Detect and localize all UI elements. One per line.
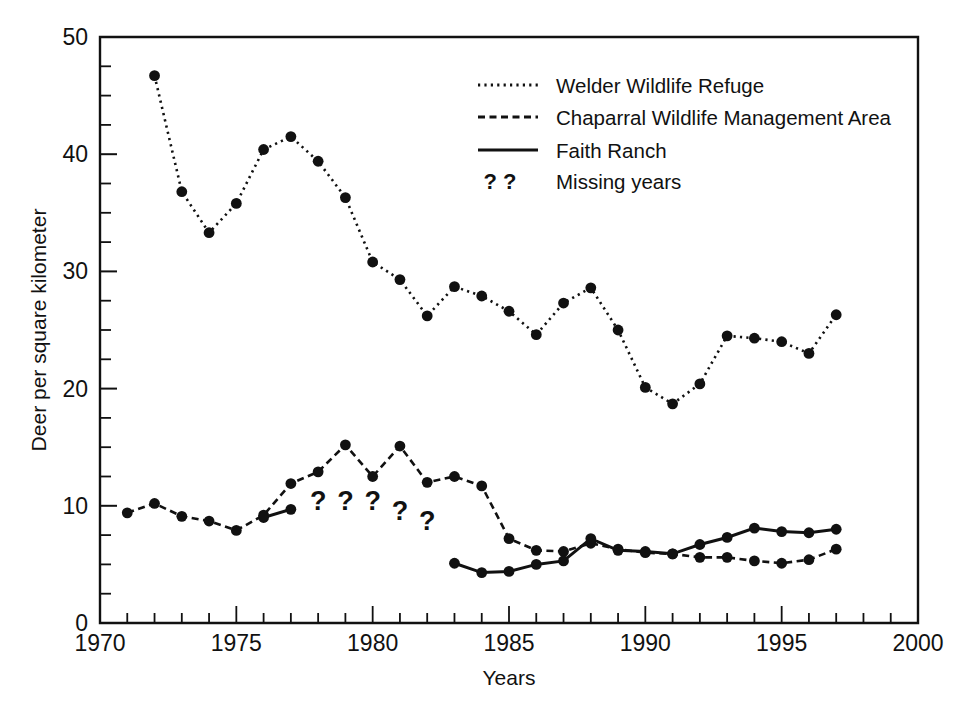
data-point-welder-wildlife-refuge	[231, 198, 242, 209]
missing-year-question-mark: ?	[364, 486, 381, 516]
legend-label: Welder Wildlife Refuge	[556, 74, 764, 97]
data-point-chaparral-wildlife-management-area	[204, 516, 215, 527]
data-point-chaparral-wildlife-management-area	[558, 546, 569, 557]
data-point-welder-wildlife-refuge	[476, 291, 487, 302]
data-point-faith-ranch	[613, 545, 624, 556]
data-point-faith-ranch	[258, 512, 269, 523]
data-point-faith-ranch	[722, 532, 733, 543]
data-point-chaparral-wildlife-management-area	[476, 480, 487, 491]
data-point-chaparral-wildlife-management-area	[340, 439, 351, 450]
data-point-faith-ranch	[449, 558, 460, 569]
missing-year-question-mark: ?	[392, 496, 409, 526]
data-point-welder-wildlife-refuge	[640, 382, 651, 393]
data-point-welder-wildlife-refuge	[831, 309, 842, 320]
data-point-chaparral-wildlife-management-area	[231, 525, 242, 536]
missing-year-annotations: ?????	[310, 486, 436, 536]
legend-label: Faith Ranch	[556, 139, 667, 162]
data-point-faith-ranch	[531, 559, 542, 570]
data-point-welder-wildlife-refuge	[204, 227, 215, 238]
data-point-welder-wildlife-refuge	[613, 325, 624, 336]
x-tick-label: 1975	[211, 630, 262, 656]
data-point-faith-ranch	[640, 546, 651, 557]
y-axis-title: Deer per square kilometer	[27, 209, 50, 452]
data-point-welder-wildlife-refuge	[149, 70, 160, 81]
data-point-welder-wildlife-refuge	[722, 330, 733, 341]
data-point-faith-ranch	[667, 548, 678, 559]
y-tick-label: 50	[62, 24, 88, 50]
data-point-welder-wildlife-refuge	[176, 186, 187, 197]
data-point-chaparral-wildlife-management-area	[122, 507, 133, 518]
x-tick-label: 1995	[756, 630, 807, 656]
data-point-chaparral-wildlife-management-area	[176, 511, 187, 522]
y-tick-label: 10	[62, 493, 88, 519]
y-tick-label: 40	[62, 141, 88, 167]
data-point-faith-ranch	[694, 539, 705, 550]
data-point-welder-wildlife-refuge	[558, 298, 569, 309]
data-point-chaparral-wildlife-management-area	[367, 471, 378, 482]
x-tick-label: 1985	[483, 630, 534, 656]
data-point-chaparral-wildlife-management-area	[149, 498, 160, 509]
y-tick-label: 20	[62, 376, 88, 402]
data-point-chaparral-wildlife-management-area	[831, 544, 842, 555]
data-point-faith-ranch	[749, 523, 760, 534]
legend-label: Chaparral Wildlife Management Area	[556, 106, 892, 129]
missing-year-question-mark: ?	[419, 506, 436, 536]
axis-titles: YearsDeer per square kilometer	[27, 209, 535, 689]
data-point-welder-wildlife-refuge	[504, 306, 515, 317]
data-point-welder-wildlife-refuge	[313, 156, 324, 167]
x-tick-label: 1990	[620, 630, 671, 656]
data-point-welder-wildlife-refuge	[776, 336, 787, 347]
data-point-faith-ranch	[476, 567, 487, 578]
missing-year-question-mark: ?	[310, 486, 327, 516]
data-point-welder-wildlife-refuge	[449, 281, 460, 292]
data-point-chaparral-wildlife-management-area	[722, 552, 733, 563]
x-axis-title: Years	[483, 666, 536, 689]
series-line-chaparral-wildlife-management-area	[127, 445, 836, 563]
data-point-chaparral-wildlife-management-area	[804, 554, 815, 565]
data-point-faith-ranch	[585, 533, 596, 544]
data-series	[122, 70, 842, 578]
data-point-faith-ranch	[504, 566, 515, 577]
data-point-welder-wildlife-refuge	[585, 282, 596, 293]
data-point-chaparral-wildlife-management-area	[422, 477, 433, 488]
data-point-chaparral-wildlife-management-area	[285, 478, 296, 489]
data-point-welder-wildlife-refuge	[258, 144, 269, 155]
legend-swatch-missing-years: ? ?	[484, 169, 517, 194]
legend-label: Missing years	[556, 170, 681, 193]
data-point-welder-wildlife-refuge	[667, 398, 678, 409]
data-point-welder-wildlife-refuge	[694, 379, 705, 390]
y-tick-label: 30	[62, 258, 88, 284]
data-point-welder-wildlife-refuge	[395, 274, 406, 285]
data-point-chaparral-wildlife-management-area	[449, 471, 460, 482]
deer-density-line-chart: 010203040501970197519801985199019952000 …	[0, 0, 966, 708]
data-point-faith-ranch	[776, 526, 787, 537]
data-point-welder-wildlife-refuge	[285, 131, 296, 142]
x-tick-label: 1980	[347, 630, 398, 656]
x-tick-label: 2000	[892, 630, 943, 656]
data-point-welder-wildlife-refuge	[531, 329, 542, 340]
data-point-welder-wildlife-refuge	[749, 333, 760, 344]
data-point-welder-wildlife-refuge	[367, 257, 378, 268]
data-point-chaparral-wildlife-management-area	[749, 555, 760, 566]
data-point-welder-wildlife-refuge	[422, 311, 433, 322]
data-point-chaparral-wildlife-management-area	[504, 533, 515, 544]
data-point-welder-wildlife-refuge	[340, 192, 351, 203]
chart-legend: Welder Wildlife RefugeChaparral Wildlife…	[478, 74, 892, 195]
data-point-chaparral-wildlife-management-area	[395, 441, 406, 452]
x-tick-label: 1970	[74, 630, 125, 656]
data-point-faith-ranch	[804, 527, 815, 538]
data-point-chaparral-wildlife-management-area	[313, 466, 324, 477]
data-point-welder-wildlife-refuge	[804, 348, 815, 359]
data-point-chaparral-wildlife-management-area	[694, 552, 705, 563]
missing-year-question-mark: ?	[337, 486, 354, 516]
data-point-chaparral-wildlife-management-area	[776, 558, 787, 569]
data-point-faith-ranch	[831, 524, 842, 535]
data-point-chaparral-wildlife-management-area	[531, 545, 542, 556]
chart-figure: 010203040501970197519801985199019952000 …	[0, 0, 966, 708]
data-point-faith-ranch	[285, 504, 296, 515]
data-point-faith-ranch	[558, 555, 569, 566]
